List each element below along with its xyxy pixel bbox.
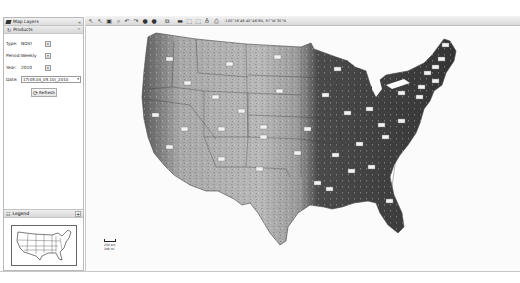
map-layers-title: Map Layers [13,19,39,24]
year-row: Year: 2010 ▾ [6,62,83,73]
ndvi-map [86,27,520,271]
period-label: Period: [6,53,21,58]
legend-icon: ☷ [6,211,10,217]
type-row: Type: NDVI ▾ [6,38,83,49]
expand-legend-button[interactable]: + [75,211,81,217]
refresh-button[interactable]: ⟳ Refresh [31,88,57,97]
top-margin [0,0,520,16]
ruler-icon[interactable]: ▬ [176,17,184,25]
year-value[interactable]: 2010 [21,65,45,70]
type-value[interactable]: NDVI [21,41,45,46]
cursor-coordinates: -100°16'46 40°46'8N, 97°W 30°N [224,19,286,23]
refresh-icon: ⟳ [33,89,38,96]
refresh-label: Refresh [39,90,55,95]
zoom-in-icon[interactable]: ● [141,17,149,25]
map-layers-header[interactable]: Map Layers « [4,18,83,26]
layers-icon[interactable]: ⧉ [163,17,171,25]
zoom-out-icon[interactable]: ● [150,17,158,25]
zoom-extent-icon[interactable]: ▣ [105,17,113,25]
year-dropdown-button[interactable]: ▾ [45,65,51,71]
products-form: Type: NDVI ▾ Period: Weekly ▾ Year: 2010… [4,34,83,97]
period-dropdown-button[interactable]: ▾ [45,53,51,59]
overview-us-outline-icon [12,226,76,265]
layers-icon [5,20,11,24]
type-label: Type: [6,41,21,46]
date-label: Date: [6,77,21,82]
products-title: Products [13,27,32,32]
export-icon[interactable]: ⎙ [212,17,220,25]
status-divider [0,271,520,272]
select-region-icon[interactable]: ⬚ [194,17,202,25]
type-dropdown-button[interactable]: ▾ [45,41,51,47]
collapse-panel-button[interactable]: « [78,19,81,25]
identify-icon[interactable]: ♁ [203,17,211,25]
date-value: 17(05.04_05.10)_2010 [23,77,68,82]
period-row: Period: Weekly ▾ [6,50,83,61]
date-select[interactable]: 17(05.04_05.10)_2010 ▾ [21,76,81,83]
app-window: Map Layers « ↻ Products ⌃ Type: NDVI ▾ P… [0,0,520,283]
overview-map[interactable] [11,225,77,266]
back-icon[interactable]: ↶ [123,17,131,25]
year-label: Year: [6,65,21,70]
products-header[interactable]: ↻ Products ⌃ [4,26,83,34]
collapse-products-button[interactable]: ⌃ [77,27,81,33]
zoom-window-icon[interactable]: ⌕ [114,17,122,25]
chevron-down-icon[interactable]: ▾ [77,77,80,82]
period-value[interactable]: Weekly [21,53,45,58]
forward-icon[interactable]: ↷ [132,17,140,25]
scale-mi-label: 200 mi [104,247,116,251]
pan-select-icon[interactable]: ↖ [96,17,104,25]
map-toolbar: ↖ ↖ ▣ ⌕ ↶ ↷ ● ● ⧉ ▬ ⬚ ⬚ ♁ ⎙ -100°16'46 4… [85,16,520,26]
legend-title: Legend [12,211,29,216]
select-box-icon[interactable]: ⬚ [185,17,193,25]
date-row: Date: 17(05.04_05.10)_2010 ▾ [6,74,83,85]
legend-header[interactable]: ☷ Legend + [4,209,83,218]
select-icon[interactable]: ↖ [87,17,95,25]
products-icon: ↻ [7,27,11,33]
map-canvas[interactable]: 250 km 200 mi [85,27,520,271]
scale-bar: 250 km 200 mi [104,239,116,251]
map-layers-panel: Map Layers « ↻ Products ⌃ Type: NDVI ▾ P… [3,17,84,271]
